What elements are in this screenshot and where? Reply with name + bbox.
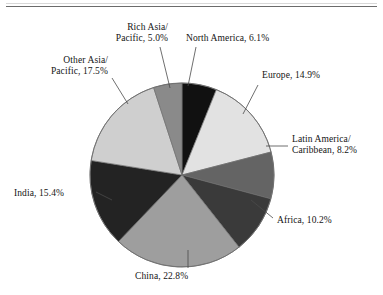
slice-label-china: China, 22.8% xyxy=(135,271,255,282)
chart-page: Rich Asia/ Pacific, 5.0% North America, … xyxy=(0,0,383,295)
slice-label-europe: Europe, 14.9% xyxy=(262,70,372,81)
leader-line-rich-asia xyxy=(160,47,170,88)
leader-line-north-america xyxy=(188,47,196,86)
slice-label-latin-america: Latin America/ Caribbean, 8.2% xyxy=(292,134,383,157)
leader-line-other-asia xyxy=(112,78,128,104)
slice-label-india: India, 15.4% xyxy=(14,188,100,199)
slice-label-north-america: North America, 6.1% xyxy=(186,33,316,44)
pie-chart: Rich Asia/ Pacific, 5.0% North America, … xyxy=(0,0,383,295)
slice-label-other-asia: Other Asia/ Pacific, 17.5% xyxy=(22,55,108,78)
pie-slices xyxy=(90,83,274,267)
slice-label-africa: Africa, 10.2% xyxy=(277,215,377,226)
slice-label-rich-asia: Rich Asia/ Pacific, 5.0% xyxy=(96,22,168,45)
leader-line-europe xyxy=(243,85,258,114)
